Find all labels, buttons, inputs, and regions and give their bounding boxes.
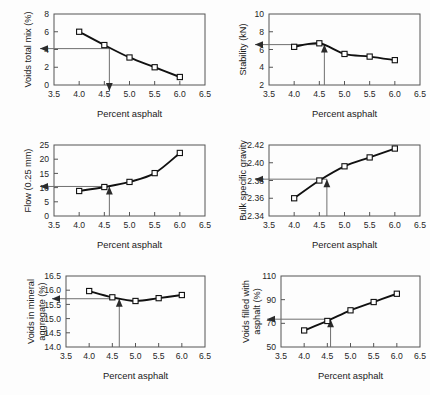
x-tick-label: 5.0 (339, 89, 351, 99)
data-point-marker (302, 328, 307, 333)
x-tick-label: 4.5 (98, 220, 110, 230)
data-point-marker (367, 54, 372, 59)
x-tick-label: 6.0 (391, 351, 403, 361)
x-axis-title: Percent asphalt (97, 108, 163, 119)
x-tick-label: 6.0 (389, 89, 401, 99)
x-tick-label: 5.5 (149, 220, 161, 230)
y-axis-title: Stability (kN) (238, 23, 248, 75)
data-point-marker (87, 288, 92, 293)
x-tick-label: 5.5 (149, 89, 161, 99)
y-tick-label: 6 (44, 27, 49, 37)
y-tick-label: 16.5 (44, 271, 61, 281)
x-tick-label: 4.0 (298, 351, 310, 361)
plot-frame (269, 145, 420, 216)
y-tick-label: 90 (266, 295, 276, 305)
marshall-mix-design-figure: 3.54.04.55.05.56.06.502468Voids total mi… (0, 0, 430, 395)
x-tick-label: 6.5 (199, 351, 211, 361)
data-point-marker (392, 146, 397, 151)
y-axis-title: Bulk specific gravity (238, 140, 248, 221)
x-tick-label: 4.5 (313, 89, 325, 99)
y-tick-label: 0 (44, 211, 49, 221)
data-point-marker (325, 318, 330, 323)
data-point-marker (348, 308, 353, 313)
x-tick-label: 5.0 (124, 220, 136, 230)
data-point-marker (342, 51, 347, 56)
x-tick-label: 4.5 (106, 351, 118, 361)
y-tick-label: 15 (39, 169, 49, 179)
y-tick-label: 0 (44, 80, 49, 90)
data-point-marker (177, 150, 182, 155)
y-tick-label: 2 (44, 62, 49, 72)
chart-svg-stability: 3.54.04.55.05.56.06.5246810Stability (kN… (215, 0, 430, 131)
y-tick-label: 2.34 (247, 211, 264, 221)
x-tick-label: 6.0 (389, 220, 401, 230)
y-tick-label: 2.42 (247, 140, 264, 150)
data-point-marker (133, 298, 138, 303)
data-point-marker (292, 196, 297, 201)
x-axis-title: Percent asphalt (312, 239, 378, 250)
y-tick-label: 10 (254, 9, 264, 19)
x-tick-label: 4.5 (321, 351, 333, 361)
x-tick-label: 6.5 (199, 89, 211, 99)
x-tick-label: 6.0 (174, 89, 186, 99)
x-tick-label: 6.0 (176, 351, 188, 361)
x-tick-label: 4.0 (288, 220, 300, 230)
y-axis-title-line: Flow (0.25 mm) (23, 149, 33, 213)
y-axis-title: Flow (0.25 mm) (23, 149, 33, 213)
x-tick-label: 5.0 (124, 89, 136, 99)
y-tick-label: 2.36 (247, 193, 264, 203)
x-tick-label: 6.5 (414, 89, 426, 99)
x-tick-label: 3.5 (60, 351, 72, 361)
data-point-marker (127, 55, 132, 60)
y-tick-label: 8 (259, 27, 264, 37)
chart-svg-flow: 3.54.04.55.05.56.06.50510152025Flow (0.2… (0, 131, 215, 262)
y-tick-label: 8 (44, 9, 49, 19)
chart-svg-voids-in-mineral-aggregate: 3.54.04.55.05.56.06.514.014.515.015.516.… (0, 262, 215, 393)
data-point-marker (371, 299, 376, 304)
data-point-marker (179, 292, 184, 297)
chart-panel-voids-in-mineral-aggregate: 3.54.04.55.05.56.06.514.014.515.015.516.… (0, 262, 215, 393)
y-axis-title: Voids total mix (%) (23, 11, 33, 87)
y-tick-label: 2.40 (247, 158, 264, 168)
y-tick-label: 14.0 (44, 342, 61, 352)
x-axis-title: Percent asphalt (312, 108, 378, 119)
y-axis-title-line: aggregate (%) (37, 282, 47, 340)
x-tick-label: 5.5 (153, 351, 165, 361)
x-tick-label: 5.0 (130, 351, 142, 361)
x-axis-title: Percent asphalt (97, 239, 163, 250)
x-tick-label: 4.0 (73, 89, 85, 99)
data-point-marker (77, 29, 82, 34)
x-tick-label: 3.5 (48, 220, 60, 230)
x-tick-label: 5.0 (345, 351, 357, 361)
y-axis-title-line: Voids in mineral (26, 279, 36, 344)
x-tick-label: 5.0 (339, 220, 351, 230)
chart-panel-voids-filled-with-asphalt: 3.54.04.55.05.56.06.5507090110Voids fill… (215, 262, 430, 393)
data-point-marker (152, 171, 157, 176)
y-tick-label: 110 (262, 271, 276, 281)
x-tick-label: 4.0 (73, 220, 85, 230)
data-point-marker (367, 155, 372, 160)
data-point-marker (317, 41, 322, 46)
y-tick-label: 16.0 (44, 285, 61, 295)
y-axis-title-line: Voids filled with (241, 280, 251, 343)
data-point-marker (102, 184, 107, 189)
data-point-marker (342, 164, 347, 169)
x-axis-title: Percent asphalt (318, 370, 384, 381)
x-tick-label: 4.5 (313, 220, 325, 230)
chart-panel-bulk-specific-gravity: 3.54.04.55.05.56.06.52.342.362.382.402.4… (215, 131, 430, 262)
chart-svg-voids-total-mix: 3.54.04.55.05.56.06.502468Voids total mi… (0, 0, 215, 131)
data-point-marker (102, 42, 107, 47)
y-axis-title: Voids filled withasphalt (%) (241, 280, 262, 343)
y-tick-label: 14.5 (44, 328, 61, 338)
x-tick-label: 6.5 (199, 220, 211, 230)
design-asphalt-arrowhead (323, 179, 330, 187)
x-tick-label: 6.5 (414, 351, 426, 361)
y-axis-title-line: Stability (kN) (238, 23, 248, 75)
x-tick-label: 3.5 (263, 220, 275, 230)
data-point-marker (394, 291, 399, 296)
data-point-marker (152, 65, 157, 70)
y-axis-title-line: Bulk specific gravity (238, 140, 248, 221)
chart-svg-voids-filled-with-asphalt: 3.54.04.55.05.56.06.5507090110Voids fill… (215, 262, 430, 393)
y-tick-label: 4 (259, 62, 264, 72)
x-tick-label: 3.5 (263, 89, 275, 99)
